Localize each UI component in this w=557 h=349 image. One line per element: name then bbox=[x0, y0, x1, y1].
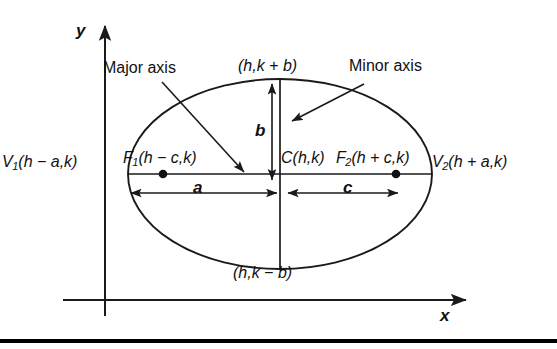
vertex-left-label: V1(h − a,k) bbox=[2, 154, 77, 172]
ellipse-diagram: y x Major axis Minor axis (h,k + b) (h,k… bbox=[0, 0, 557, 349]
focus-right-dot bbox=[392, 170, 401, 179]
co-vertex-top-label: (h,k + b) bbox=[238, 58, 297, 74]
focus-right-label: F2(h + c,k) bbox=[336, 150, 410, 168]
focus-left-dot bbox=[159, 170, 168, 179]
dimension-label-b: b bbox=[255, 122, 265, 139]
x-axis-label: x bbox=[440, 307, 449, 324]
vertex-left-coords: (h − a,k) bbox=[18, 153, 77, 170]
focus-left-label: F1(h − c,k) bbox=[123, 150, 197, 168]
center-label: C(h,k) bbox=[281, 150, 325, 166]
dimension-label-c: c bbox=[343, 179, 352, 196]
diagram-canvas bbox=[0, 0, 557, 349]
major-axis-callout-label: Major axis bbox=[103, 60, 176, 76]
co-vertex-bottom-label: (h,k − b) bbox=[233, 265, 292, 281]
center-coords: (h,k) bbox=[293, 149, 325, 166]
focus-left-coords: (h − c,k) bbox=[138, 149, 196, 166]
vertex-right-label: V2(h + a,k) bbox=[432, 154, 507, 172]
vertex-right-coords: (h + a,k) bbox=[448, 153, 507, 170]
minor-axis-callout-label: Minor axis bbox=[349, 58, 422, 74]
y-axis-label: y bbox=[76, 22, 85, 39]
focus-right-coords: (h + c,k) bbox=[351, 149, 409, 166]
center-symbol: C bbox=[281, 149, 293, 166]
dimension-label-a: a bbox=[193, 179, 202, 196]
minor-axis-leader-line bbox=[292, 84, 364, 121]
